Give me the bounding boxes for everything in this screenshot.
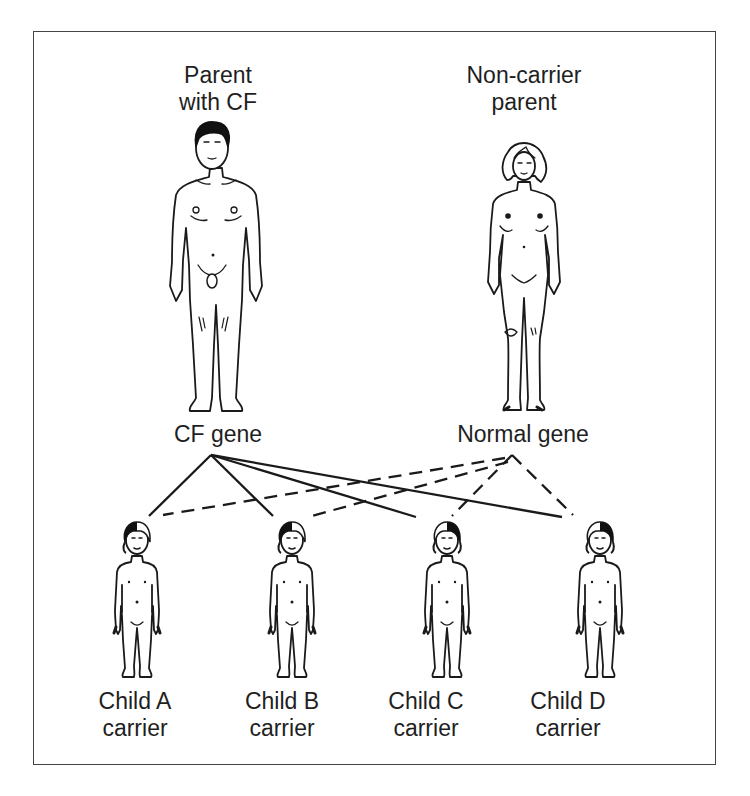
child-a-figure — [114, 522, 160, 677]
child-b-figure — [269, 522, 315, 677]
line-normal-to-child-a — [163, 458, 505, 515]
line-cf-to-child-a — [149, 455, 211, 516]
child-c-figure — [424, 522, 470, 677]
line-normal-to-child-d — [512, 455, 573, 515]
father-figure — [170, 122, 262, 411]
mother-figure — [488, 143, 560, 410]
diagram-artwork — [0, 0, 750, 796]
child-d-figure — [577, 522, 623, 677]
